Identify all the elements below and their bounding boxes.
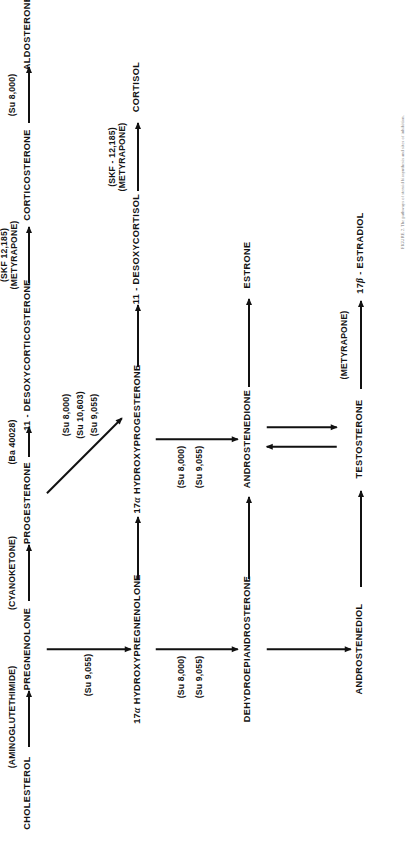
arrow-dhea-to-androstenedione [248, 497, 250, 579]
inhibitor-su9055-c: (Su 9,055) [89, 394, 99, 437]
node-11-desoxycortisol: 11 - DESOXYCORTISOL [132, 194, 141, 304]
arrow-dhea-to-androstenediol [267, 648, 351, 650]
inhibitor-ba40028: (Ba 40028) [7, 420, 17, 465]
arrow-corticosterone-to-aldosterone [28, 67, 30, 123]
pathway-diagram-canvas: CHOLESTEROL (AMINOGLUTETHIMIDE) PREGNENO… [0, 0, 415, 845]
arrow-testosterone-to-17b-estradiol [360, 301, 362, 389]
inhibitor-su10603-c: (Su 10,603) [75, 391, 85, 439]
inhibitor-su9055-d: (Su 9,055) [194, 446, 204, 489]
arrow-cholesterol-to-pregnenolone [28, 691, 30, 747]
inhibitor-su8000-d: (Su 8,000) [176, 446, 186, 489]
node-17a-hydroxyprogesterone: 17α HYDROXYPROGESTERONE [132, 364, 142, 513]
alpha-symbol: α [131, 707, 142, 713]
arrow-pregnenolone-to-17a-hydroxypregnenolone [47, 648, 131, 650]
inhibitor-line-1: (SKF 12,185) [0, 228, 9, 282]
inhibitor-line-1: (SKF - 12,185) [107, 127, 117, 187]
rotated-figure-wrapper: CHOLESTEROL (AMINOGLUTETHIMIDE) PREGNENO… [0, 0, 415, 845]
node-cortisol: CORTISOL [132, 62, 141, 112]
node-dehydroepiandrosterone: DEHYDROEPIANDROSTERONE [243, 576, 252, 723]
figure-caption: FIGURE 2. The pathways of steroid biosyn… [400, 115, 405, 249]
inhibitor-line-2: (METYRAPONE) [9, 221, 19, 290]
inhibitor-cyanoketone: (CYANOKETONE) [7, 536, 17, 610]
node-androstenedione: ANDROSTENEDIONE [243, 390, 252, 489]
node-11-desoxycorticosterone: 11 - DESOXYCORTICOSTERONE [23, 279, 32, 431]
inhibitor-skf12185-metyrapone-1: (SKF 12,185) (METYRAPONE) [0, 221, 19, 290]
node-progesterone: PROGESTERONE [23, 462, 32, 544]
node-17a-hydroxypregnenolone: 17α HYDROXYPREGNENOLONE [132, 574, 142, 724]
arrow-17a-hydroxypregnenolone-to-17a-hydroxyprogesterone [137, 517, 139, 579]
inhibitor-line-2: (METYRAPONE) [117, 123, 127, 192]
arrow-pregnenolone-to-progesterone [28, 545, 30, 601]
arrow-androstenedione-to-testosterone [267, 426, 337, 428]
arrow-androstenediol-to-testosterone [360, 491, 362, 587]
inhibitor-su8000-e: (Su 8,000) [7, 74, 17, 117]
node-testosterone: TESTOSTERONE [355, 399, 364, 478]
alpha-symbol: α [131, 497, 142, 503]
node-estrone: ESTRONE [243, 242, 252, 289]
arrow-17a-hydroxyprogesterone-to-11-desoxycortisol [137, 305, 139, 367]
beta-symbol: β [354, 278, 365, 283]
inhibitor-su9055-b: (Su 9,055) [194, 656, 204, 699]
node-cholesterol: CHOLESTEROL [23, 756, 32, 829]
arrow-17a-hydroxypregnenolone-to-dhea [156, 648, 238, 650]
arrow-desoxycorticosterone-to-corticosterone [28, 227, 30, 283]
inhibitor-skf12185-metyrapone-2: (SKF - 12,185) (METYRAPONE) [107, 123, 128, 192]
arrow-testosterone-to-androstenedione [267, 446, 337, 448]
inhibitor-aminoglutethimide: (AMINOGLUTETHIMIDE) [7, 666, 17, 769]
inhibitor-metyrapone: (METYRAPONE) [339, 311, 349, 380]
inhibitor-su8000-b: (Su 8,000) [176, 656, 186, 699]
figure-page: CHOLESTEROL (AMINOGLUTETHIMIDE) PREGNENO… [0, 0, 415, 845]
inhibitor-su9055-a: (Su 9,055) [83, 654, 93, 697]
node-corticosterone: CORTICOSTERONE [23, 129, 32, 221]
arrow-17a-hydroxyprogesterone-to-androstenedione [156, 438, 238, 440]
arrow-11-desoxycortisol-to-cortisol [137, 123, 139, 191]
arrow-androstenedione-to-estrone [248, 299, 250, 387]
node-17b-estradiol: 17β - ESTRADIOL [355, 212, 365, 294]
node-pregnenolone: PREGNENOLONE [23, 608, 32, 690]
inhibitor-su8000-c: (Su 8,000) [61, 394, 71, 437]
arrow-progesterone-to-desoxycorticosterone [28, 427, 30, 457]
node-androstenediol: ANDROSTENEDIOL [355, 603, 364, 694]
node-aldosterone: ALDOSTERONE [23, 0, 32, 70]
